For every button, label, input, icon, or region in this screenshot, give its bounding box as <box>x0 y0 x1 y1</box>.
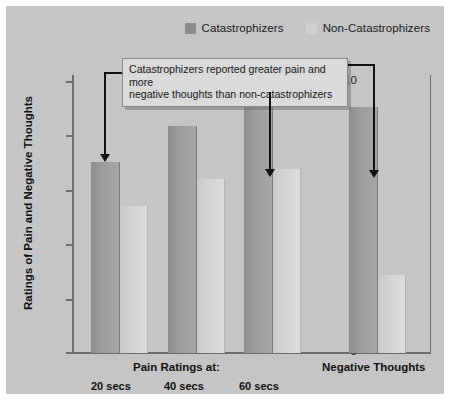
legend-swatch-catastrophizers <box>185 23 196 34</box>
y-tick-2 <box>66 299 72 301</box>
legend-item-non-catastrophizers: Non-Catastrophizers <box>306 22 430 34</box>
y-tick-8 <box>66 135 72 137</box>
callout-arrow-right <box>369 170 379 178</box>
x-tick-label-40-secs: 40 secs <box>164 380 204 392</box>
callout-connector-right-vertical <box>373 64 375 174</box>
annotation-callout: Catastrophizers reported greater pain an… <box>122 58 348 107</box>
legend-swatch-non-catastrophizers <box>306 23 317 34</box>
bar-non-catastrophizers-negative-thoughts <box>378 275 406 353</box>
legend-label-non-catastrophizers: Non-Catastrophizers <box>323 22 430 34</box>
plot-right-border <box>430 75 432 353</box>
callout-connector-middle-vertical <box>269 92 271 172</box>
callout-connector-right-horizontal <box>348 64 375 66</box>
x-group-title-negative-thoughts: Negative Thoughts <box>322 361 426 373</box>
callout-arrow-middle <box>265 169 275 177</box>
annotation-line-1: Catastrophizers reported greater pain an… <box>129 63 341 88</box>
x-tick-label-60-secs: 60 secs <box>239 380 279 392</box>
plot-area: 10 8 6 4 2 0 <box>72 75 431 353</box>
chart-legend: Catastrophizers Non-Catastrophizers <box>6 22 444 34</box>
bar-non-catastrophizers-40-secs <box>197 179 225 354</box>
y-tick-4 <box>66 244 72 246</box>
x-tick-label-20-secs: 20 secs <box>91 380 131 392</box>
x-group-title-pain-ratings: Pain Ratings at: <box>133 361 220 373</box>
legend-label-catastrophizers: Catastrophizers <box>202 22 284 34</box>
callout-connector-left-vertical <box>104 72 106 157</box>
legend-item-catastrophizers: Catastrophizers <box>185 22 284 34</box>
y-axis-line <box>72 75 74 353</box>
y-tick-0 <box>66 352 72 354</box>
bar-non-catastrophizers-20-secs <box>120 206 148 353</box>
callout-connector-left-horizontal <box>104 72 122 74</box>
y-tick-10 <box>66 81 72 83</box>
bar-non-catastrophizers-60-secs <box>273 169 301 353</box>
chart-figure: Catastrophizers Non-Catastrophizers Rati… <box>6 6 444 394</box>
annotation-line-2: negative thoughts than non-catastrophize… <box>129 88 341 101</box>
y-tick-6 <box>66 190 72 192</box>
y-axis-title: Ratings of Pain and Negative Thoughts <box>22 96 34 310</box>
callout-arrow-left <box>100 154 110 162</box>
bar-catastrophizers-40-secs <box>168 126 197 353</box>
bar-catastrophizers-20-secs <box>91 162 120 353</box>
